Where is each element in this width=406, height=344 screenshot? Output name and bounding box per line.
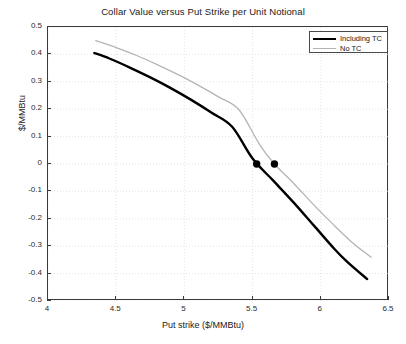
series-line-including-tc (94, 53, 367, 279)
x-tick-label: 5 (168, 305, 198, 313)
x-tick-label: 5.5 (237, 305, 267, 313)
y-axis-label: $/MMBtu (17, 53, 27, 173)
y-tick-label: -0.3 (8, 241, 42, 249)
legend-item-including-tc: Including TC (313, 34, 384, 43)
legend-line-icon-including-tc (313, 38, 336, 40)
x-tick-mark (115, 296, 116, 300)
x-tick-label: 4 (32, 305, 62, 313)
x-tick-label: 6.5 (373, 305, 403, 313)
series-line-no-tc (96, 41, 372, 257)
y-tick-label: 0.5 (8, 22, 42, 30)
plot-canvas (48, 27, 389, 301)
y-tick-mark (47, 81, 51, 82)
y-tick-mark (47, 136, 51, 137)
x-tick-mark (252, 296, 253, 300)
data-marker-zero-crossing-including-tc (253, 160, 260, 167)
data-series-layer (94, 41, 371, 279)
legend-line-icon-no-tc (313, 48, 336, 49)
y-tick-mark (47, 218, 51, 219)
y-tick-label: -0.1 (8, 186, 42, 194)
page-title: Collar Value versus Put Strike per Unit … (0, 6, 406, 17)
y-tick-mark (47, 273, 51, 274)
x-tick-mark (47, 296, 48, 300)
x-tick-mark (320, 296, 321, 300)
x-axis-label: Put strike ($/MMBtu) (0, 320, 406, 330)
x-tick-mark (388, 296, 389, 300)
x-tick-label: 4.5 (100, 305, 130, 313)
gridlines (48, 27, 389, 301)
legend-label-no-tc: No TC (340, 45, 362, 53)
x-tick-label: 6 (305, 305, 335, 313)
y-tick-label: -0.5 (8, 296, 42, 304)
x-tick-mark (183, 296, 184, 300)
data-markers-layer (253, 160, 278, 167)
data-marker-zero-crossing-no-tc (271, 160, 278, 167)
plot-area (47, 26, 388, 300)
y-tick-mark (47, 108, 51, 109)
y-tick-mark (47, 26, 51, 27)
y-tick-mark (47, 163, 51, 164)
legend-item-no-tc: No TC (313, 44, 384, 53)
y-tick-label: -0.2 (8, 214, 42, 222)
y-tick-mark (47, 53, 51, 54)
legend: Including TC No TC (309, 31, 388, 53)
legend-label-including-tc: Including TC (340, 35, 382, 43)
y-tick-mark (47, 300, 51, 301)
y-tick-mark (47, 245, 51, 246)
chart-figure: Collar Value versus Put Strike per Unit … (0, 0, 406, 344)
y-tick-label: -0.4 (8, 269, 42, 277)
y-tick-mark (47, 190, 51, 191)
